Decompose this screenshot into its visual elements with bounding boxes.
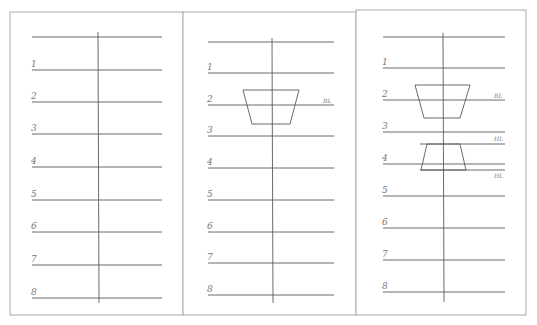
row-label-7: 7 — [382, 249, 388, 259]
panel-2: 12345678BL — [183, 12, 356, 315]
row-label-1: 1 — [207, 62, 213, 72]
row-label-6: 6 — [207, 221, 213, 231]
row-label-4: 4 — [381, 153, 388, 163]
row-label-1: 1 — [382, 57, 388, 67]
row-label-5: 5 — [382, 185, 388, 195]
row-label-5: 5 — [207, 189, 213, 199]
figure-diagram: 1234567812345678BL12345678BLHLHL — [0, 0, 537, 325]
row-label-5: 5 — [31, 189, 37, 199]
level-tag-hl: HL — [493, 135, 503, 142]
row-label-3: 3 — [31, 123, 37, 133]
row-label-2: 2 — [30, 91, 37, 101]
level-tag-hl: HL — [493, 172, 503, 179]
row-label-3: 3 — [207, 125, 213, 135]
row-label-4: 4 — [206, 157, 213, 167]
row-label-7: 7 — [31, 254, 37, 264]
diagram-canvas: 1234567812345678BL12345678BLHLHL — [0, 0, 537, 325]
row-label-8: 8 — [207, 284, 213, 294]
level-tag-bl: BL — [322, 97, 331, 104]
row-label-2: 2 — [381, 89, 388, 99]
row-label-8: 8 — [31, 287, 37, 297]
panel-3: 12345678BLHLHL — [356, 10, 526, 315]
row-label-6: 6 — [382, 217, 388, 227]
row-label-7: 7 — [207, 252, 213, 262]
row-label-2: 2 — [206, 94, 213, 104]
row-label-6: 6 — [31, 221, 37, 231]
row-label-8: 8 — [382, 281, 388, 291]
level-tag-bl: BL — [493, 92, 502, 99]
row-label-1: 1 — [31, 59, 37, 69]
panel-1: 12345678 — [10, 12, 183, 315]
row-label-3: 3 — [382, 121, 388, 131]
row-label-4: 4 — [30, 156, 37, 166]
